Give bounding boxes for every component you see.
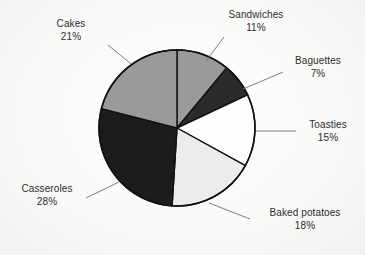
pie-label-casseroles: Casseroles 28% (6, 183, 88, 208)
pie-label-sandwiches-name: Sandwiches (210, 9, 302, 22)
pie-label-toasties-name: Toasties (296, 119, 360, 132)
pie-label-toasties: Toasties 15% (296, 119, 360, 144)
pie-label-cakes-value: 21% (34, 31, 108, 44)
pie-label-casseroles-name: Casseroles (6, 183, 88, 196)
pie-label-casseroles-value: 28% (6, 196, 88, 209)
leader-line-cakes (108, 45, 131, 64)
pie-label-baguettes-value: 7% (278, 68, 358, 81)
pie-label-baked-potatoes: Baked potatoes 18% (249, 207, 361, 232)
pie-label-sandwiches-value: 11% (210, 22, 302, 35)
pie-label-baguettes-name: Baguettes (278, 55, 358, 68)
pie-label-cakes: Cakes 21% (34, 18, 108, 43)
leader-line-baguettes (243, 72, 283, 89)
pie-label-cakes-name: Cakes (34, 18, 108, 31)
pie-label-toasties-value: 15% (296, 132, 360, 145)
pie-label-baked-potatoes-value: 18% (249, 220, 361, 233)
pie-chart-figure: Cakes 21% Sandwiches 11% Baguettes 7% To… (0, 0, 365, 255)
leader-line-casseroles (86, 182, 119, 198)
pie-label-sandwiches: Sandwiches 11% (210, 9, 302, 34)
pie-label-baguettes: Baguettes 7% (278, 55, 358, 80)
leader-line-baked-potatoes (209, 203, 250, 219)
leader-line-sandwiches (206, 37, 224, 61)
pie-label-baked-potatoes-name: Baked potatoes (249, 207, 361, 220)
